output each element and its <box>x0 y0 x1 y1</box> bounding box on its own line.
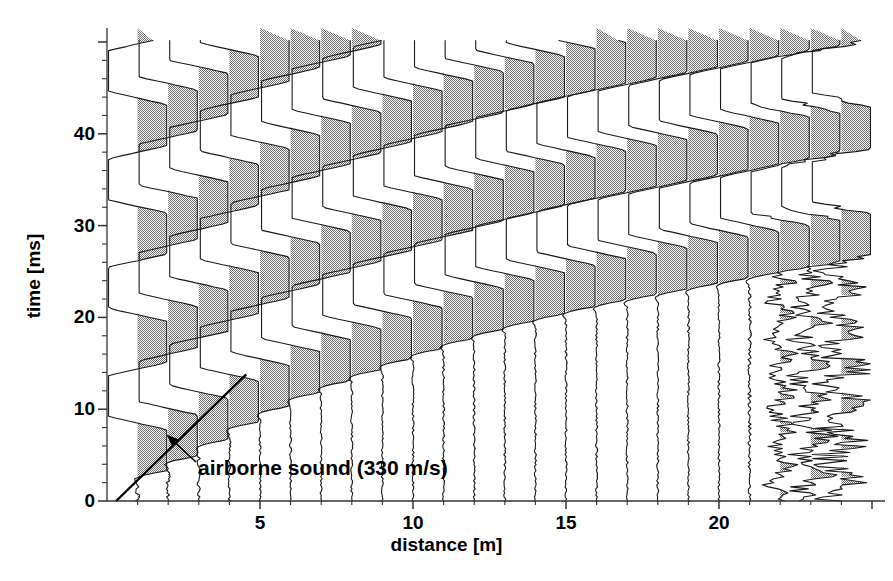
seismogram-canvas <box>0 0 893 581</box>
y-tick-label: 10 <box>49 398 95 420</box>
trace <box>506 41 564 501</box>
x-tick-label: 15 <box>543 512 589 534</box>
x-axis-label: distance [m] <box>0 534 893 556</box>
figure-root: time [ms] distance [m] 010203040 5101520… <box>0 0 893 581</box>
x-tick-label: 5 <box>237 512 283 534</box>
airborne-sound-annotation: airborne sound (330 m/s) <box>198 456 448 480</box>
trace-group <box>109 28 871 501</box>
y-tick-label: 40 <box>49 123 95 145</box>
y-tick-label: 30 <box>49 215 95 237</box>
y-tick-label: 0 <box>49 490 95 512</box>
y-tick-label: 20 <box>49 306 95 328</box>
x-tick-label: 10 <box>390 512 436 534</box>
trace <box>109 28 167 501</box>
y-axis-label: time [ms] <box>23 196 45 356</box>
x-tick-label: 20 <box>696 512 742 534</box>
